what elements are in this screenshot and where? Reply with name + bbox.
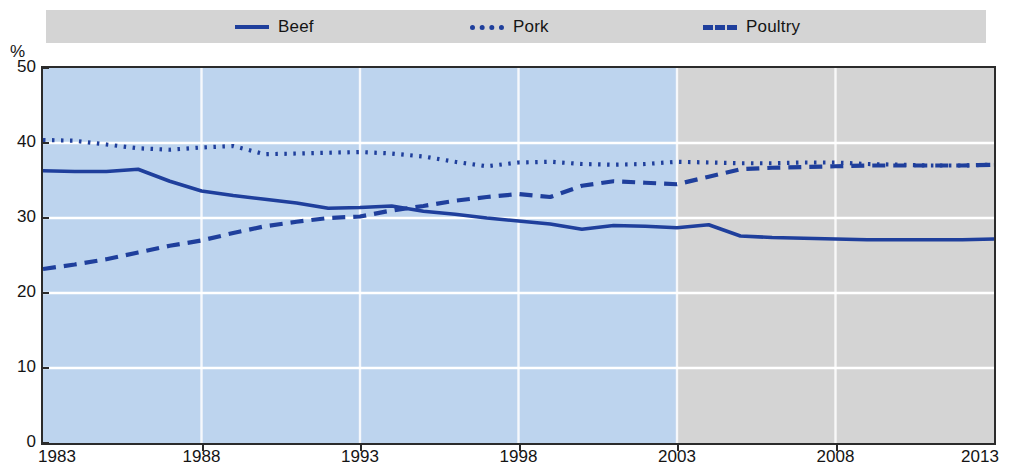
y-tick-mark: [41, 142, 49, 144]
y-tick-label: 0: [2, 432, 36, 452]
y-tick-label: 10: [2, 357, 36, 377]
chart-figure: Beef Pork Poultry % 01020304050 19831988…: [0, 0, 1021, 469]
plot-area: [41, 66, 996, 445]
y-tick-label: 20: [2, 282, 36, 302]
y-axis-tick-labels: 01020304050: [0, 0, 36, 469]
solid-line-icon: [235, 20, 269, 34]
legend-label-poultry: Poultry: [746, 17, 800, 37]
x-tick-label: 2013: [961, 447, 999, 467]
y-tick-label: 50: [2, 57, 36, 77]
x-tick-mark: [360, 443, 362, 451]
x-tick-mark: [677, 443, 679, 451]
legend-item-poultry: Poultry: [703, 17, 800, 37]
dotted-line-icon: [470, 20, 504, 34]
x-tick-mark: [202, 443, 204, 451]
y-tick-label: 40: [2, 132, 36, 152]
chart-canvas: [43, 68, 994, 443]
y-tick-label: 30: [2, 207, 36, 227]
y-tick-mark: [41, 367, 49, 369]
y-tick-mark: [41, 217, 49, 219]
x-tick-mark: [836, 443, 838, 451]
y-tick-mark: [41, 442, 49, 444]
y-tick-mark: [41, 67, 49, 69]
legend-label-beef: Beef: [278, 17, 314, 37]
x-tick-label: 1983: [38, 447, 76, 467]
legend-label-pork: Pork: [513, 17, 549, 37]
legend-item-pork: Pork: [470, 17, 549, 37]
legend-item-beef: Beef: [235, 17, 314, 37]
dashed-line-icon: [703, 20, 737, 34]
y-tick-mark: [41, 292, 49, 294]
chart-legend: Beef Pork Poultry: [46, 10, 986, 43]
x-tick-mark: [519, 443, 521, 451]
